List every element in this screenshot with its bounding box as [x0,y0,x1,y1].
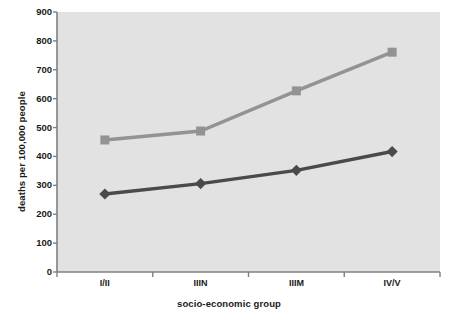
axis-lines [53,12,440,277]
series-layer [99,48,397,200]
data-point-marker [291,165,302,176]
data-point-marker [99,188,110,199]
data-point-marker [100,135,109,144]
data-point-marker [387,146,398,157]
series-line-lower-series [105,152,392,194]
chart-plot-svg [0,0,458,322]
series-line-upper-series [105,52,392,140]
data-point-marker [196,127,205,136]
data-point-marker [292,86,301,95]
chart-container: 0100200300400500600700800900 I/IIIIINIII… [0,0,458,322]
data-point-marker [195,178,206,189]
data-point-marker [388,48,397,57]
